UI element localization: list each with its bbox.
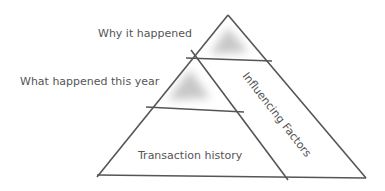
- label-what-happened: What happened this year: [20, 75, 160, 88]
- base-line: [97, 175, 366, 178]
- middle-divider: [146, 107, 244, 112]
- label-why-it-happened: Why it happened: [98, 27, 192, 40]
- middle-shade: [168, 70, 210, 100]
- label-transaction-history: Transaction history: [137, 149, 243, 162]
- outer-right-edge: [228, 15, 366, 178]
- pyramid-svg: Why it happened What happened this year …: [0, 0, 385, 191]
- label-influencing-factors: Influencing Factors: [240, 70, 314, 160]
- pyramid-diagram: Why it happened What happened this year …: [0, 0, 385, 191]
